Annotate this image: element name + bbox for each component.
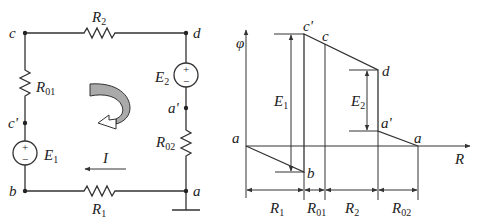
emf-source-e1: + − — [13, 141, 37, 165]
label-r1: R1 — [91, 201, 106, 219]
label-e1: E1 — [43, 147, 58, 165]
node-label-a-prime: a' — [168, 100, 180, 116]
circuit-schematic: + − + − c d b a c' a' R2 R01 E1 E2 R02 — [8, 9, 201, 219]
point-label-c: c — [322, 28, 329, 44]
wire-bottom — [25, 186, 186, 196]
node-label-a: a — [193, 183, 201, 199]
label-r2: R2 — [91, 9, 106, 27]
node-b-dot — [23, 189, 27, 193]
point-label-a-origin: a — [232, 130, 240, 146]
point-label-a-prime: a' — [381, 115, 393, 131]
point-label-b: b — [307, 165, 315, 181]
svg-text:+: + — [183, 63, 189, 75]
node-label-d: d — [193, 25, 201, 41]
circuit-and-potential-diagram: + − + − c d b a c' a' R2 R01 E1 E2 R02 — [0, 0, 482, 222]
node-a-prime-dot — [184, 106, 188, 110]
point-label-c-prime: c' — [303, 18, 314, 34]
segment-r02-label: R02 — [391, 200, 411, 218]
current-label: I — [102, 150, 109, 166]
label-e2: E2 — [154, 69, 169, 87]
e2-label: E2 — [350, 93, 365, 111]
node-label-c: c — [9, 25, 16, 41]
node-c-dot — [23, 31, 27, 35]
wire-right — [181, 33, 191, 191]
wire-left — [20, 33, 30, 191]
svg-text:+: + — [22, 141, 28, 153]
wire-top — [25, 28, 186, 38]
node-label-c-prime: c' — [8, 115, 19, 131]
clockwise-loop-arrow-icon — [90, 84, 130, 129]
label-r02: R02 — [155, 134, 175, 152]
label-r01: R01 — [35, 79, 55, 97]
segment-r1-label: R1 — [269, 200, 284, 218]
potential-profile-line — [246, 34, 418, 172]
node-a-dot — [184, 189, 188, 193]
point-label-d: d — [382, 63, 390, 79]
svg-text:−: − — [183, 75, 189, 87]
segment-r2-label: R2 — [344, 200, 359, 218]
point-label-a-end: a — [414, 130, 422, 146]
phi-axis-label: φ — [236, 35, 244, 51]
potential-diagram: φ R E1 E2 a b c' c d a' a R1 R01 — [232, 18, 470, 218]
svg-text:−: − — [22, 153, 28, 165]
node-c-prime-dot — [23, 121, 27, 125]
r-axis-label: R — [454, 151, 464, 167]
node-d-dot — [184, 31, 188, 35]
segment-r01-label: R01 — [306, 200, 326, 218]
emf-source-e2: + − — [174, 63, 198, 87]
node-label-b: b — [9, 183, 17, 199]
e1-label: E1 — [273, 93, 288, 111]
